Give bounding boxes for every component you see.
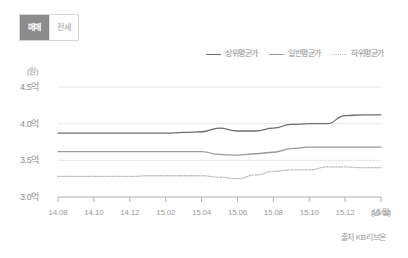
series-line-1 xyxy=(58,147,381,155)
x-axis-tick-label: 14.10 xyxy=(84,209,103,217)
y-axis-tick-label: 4.5억 xyxy=(20,83,39,92)
x-axis-tick-label: 14.08 xyxy=(48,209,67,217)
x-axis-ticks xyxy=(58,197,381,202)
chart-area: (원) 4.5억4.0억3.5억3.0억 14.0814.1014.1215.0… xyxy=(0,0,408,258)
source-attribution: 출처 KB리브온 xyxy=(341,234,387,242)
y-axis-tick-label: 4.0억 xyxy=(20,120,39,129)
x-axis-tick-label: 15.10 xyxy=(300,209,319,217)
chart-plot-svg xyxy=(0,0,408,258)
series-lines xyxy=(58,115,381,179)
gridlines xyxy=(58,87,381,160)
y-axis-tick-label: 3.0억 xyxy=(20,193,39,202)
x-axis-tick-label: 15.12 xyxy=(336,209,355,217)
x-axis-tick-label: 15.04 xyxy=(192,209,211,217)
x-axis-unit-label: (년/월) xyxy=(371,209,391,217)
x-axis-tick-label: 15.02 xyxy=(156,209,175,217)
x-axis-tick-label: 14.12 xyxy=(120,209,139,217)
price-chart-widget: 매매 전세 상위평균가 일반평균가 하위평균가 (원) 4.5억4.0억3.5억… xyxy=(0,0,408,258)
series-line-2 xyxy=(58,167,381,179)
x-axis-tick-label: 15.08 xyxy=(264,209,283,217)
x-axis-tick-label: 15.06 xyxy=(228,209,247,217)
y-axis-tick-label: 3.5억 xyxy=(20,156,39,165)
